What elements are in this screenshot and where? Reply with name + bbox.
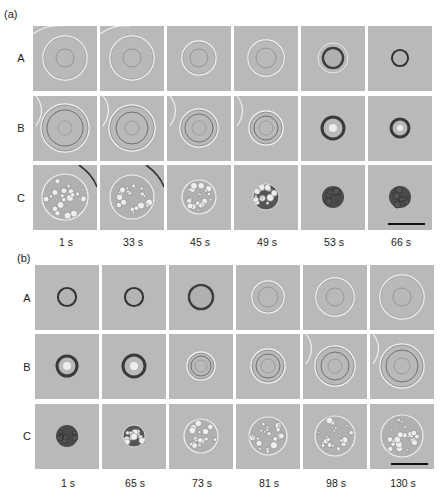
micrograph-a-A-1 bbox=[33, 26, 97, 91]
time-label-a-1: 1 s bbox=[33, 236, 99, 248]
micrograph-b-C-3 bbox=[169, 404, 233, 469]
row-label-b-B: B bbox=[20, 361, 34, 373]
micrograph-a-B-3 bbox=[167, 96, 231, 161]
micrograph-b-C-4 bbox=[236, 404, 300, 469]
time-label-b-3: 73 s bbox=[169, 477, 235, 489]
micrograph-b-A-4 bbox=[236, 265, 300, 330]
scale-bar-b bbox=[391, 463, 428, 465]
micrograph-b-C-2 bbox=[102, 404, 166, 469]
micrograph-a-B-4 bbox=[234, 96, 298, 161]
micrograph-b-A-5 bbox=[303, 265, 367, 330]
micrograph-b-C-1 bbox=[35, 404, 99, 469]
micrograph-b-B-1 bbox=[35, 334, 99, 399]
time-label-b-4: 81 s bbox=[236, 477, 302, 489]
time-label-a-5: 53 s bbox=[301, 236, 367, 248]
row-label-b-C: C bbox=[20, 430, 34, 442]
micrograph-b-C-6 bbox=[370, 404, 434, 469]
row-label-b-A: A bbox=[20, 292, 34, 304]
part-label-b: (b) bbox=[17, 252, 30, 264]
micrograph-b-A-1 bbox=[35, 265, 99, 330]
time-label-b-1: 1 s bbox=[35, 477, 101, 489]
time-label-b-5: 98 s bbox=[303, 477, 369, 489]
row-label-a-B: B bbox=[14, 122, 28, 134]
part-label-a: (a) bbox=[4, 8, 17, 20]
micrograph-b-B-2 bbox=[102, 334, 166, 399]
micrograph-a-A-3 bbox=[167, 26, 231, 91]
micrograph-b-B-5 bbox=[303, 334, 367, 399]
micrograph-a-B-6 bbox=[368, 96, 432, 161]
time-label-a-2: 33 s bbox=[100, 236, 166, 248]
row-label-a-A: A bbox=[14, 52, 28, 64]
micrograph-a-C-1 bbox=[33, 165, 97, 230]
micrograph-b-C-5 bbox=[303, 404, 367, 469]
time-label-b-2: 65 s bbox=[102, 477, 168, 489]
micrograph-a-A-5 bbox=[301, 26, 365, 91]
time-label-a-3: 45 s bbox=[167, 236, 233, 248]
micrograph-b-A-2 bbox=[102, 265, 166, 330]
row-label-a-C: C bbox=[14, 192, 28, 204]
micrograph-b-A-6 bbox=[370, 265, 434, 330]
micrograph-a-B-2 bbox=[100, 96, 164, 161]
micrograph-b-B-3 bbox=[169, 334, 233, 399]
time-label-a-4: 49 s bbox=[234, 236, 300, 248]
micrograph-a-C-2 bbox=[100, 165, 164, 230]
micrograph-a-B-1 bbox=[33, 96, 97, 161]
micrograph-b-B-4 bbox=[236, 334, 300, 399]
micrograph-a-B-5 bbox=[301, 96, 365, 161]
micrograph-b-A-3 bbox=[169, 265, 233, 330]
micrograph-b-B-6 bbox=[370, 334, 434, 399]
time-label-b-6: 130 s bbox=[370, 477, 436, 489]
micrograph-a-C-4 bbox=[234, 165, 298, 230]
time-label-a-6: 66 s bbox=[368, 236, 434, 248]
micrograph-a-C-5 bbox=[301, 165, 365, 230]
micrograph-a-A-2 bbox=[100, 26, 164, 91]
scale-bar-a bbox=[388, 223, 425, 225]
micrograph-a-A-6 bbox=[368, 26, 432, 91]
micrograph-a-C-6 bbox=[368, 165, 432, 230]
micrograph-a-C-3 bbox=[167, 165, 231, 230]
micrograph-a-A-4 bbox=[234, 26, 298, 91]
